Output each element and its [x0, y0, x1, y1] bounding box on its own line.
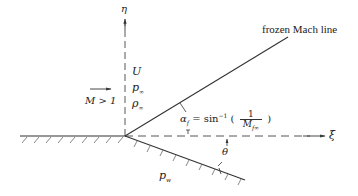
paren-open: (	[231, 113, 235, 124]
theta-label: θ	[222, 147, 228, 157]
wall-pressure-subscript: w	[166, 176, 171, 183]
paren-close: )	[267, 113, 271, 124]
inverse-superscript: −1	[219, 112, 228, 119]
mach-symbol: M	[243, 119, 252, 129]
sin-operator: = sin	[192, 113, 218, 124]
pressure-label: p∞	[132, 82, 144, 93]
velocity-label: U	[132, 66, 141, 77]
alpha-symbol: α	[180, 113, 187, 124]
eta-axis-label: η	[121, 4, 127, 14]
mach-condition-label: M > 1	[85, 96, 116, 106]
xi-axis-label: ξ	[329, 130, 335, 141]
alpha-f-formula: αf = sin−1 ( 1 Mf∞ )	[180, 110, 271, 129]
density-label: ρ∞	[132, 98, 143, 109]
mach-subscript: f∞	[252, 124, 259, 131]
fraction: 1 Mf∞	[240, 110, 262, 129]
pressure-subscript: ∞	[139, 88, 144, 95]
pressure-symbol: p	[132, 81, 139, 94]
wall-pressure-label: pw	[159, 170, 171, 181]
fraction-denominator: Mf∞	[240, 120, 262, 129]
wall-pressure-symbol: p	[159, 169, 166, 182]
upstream-wall	[20, 136, 125, 143]
frozen-mach-line-label: frozen Mach line	[262, 24, 337, 35]
density-subscript: ∞	[138, 104, 143, 111]
alpha-subscript: f	[187, 119, 189, 126]
